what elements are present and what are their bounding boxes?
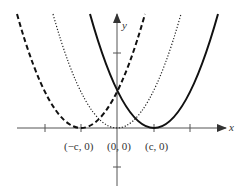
parabola-translation-diagram: x y (−c, 0) (0, 0) (c, 0) xyxy=(0,0,243,196)
y-axis-label: y xyxy=(121,19,127,31)
x-axis-label: x xyxy=(228,121,234,133)
point-label-c: (c, 0) xyxy=(145,140,169,153)
solid-parabola-curve xyxy=(90,14,218,128)
point-label-neg-c: (−c, 0) xyxy=(64,140,94,153)
dashed-parabola-curve xyxy=(17,14,145,128)
point-label-origin: (0, 0) xyxy=(107,140,131,153)
